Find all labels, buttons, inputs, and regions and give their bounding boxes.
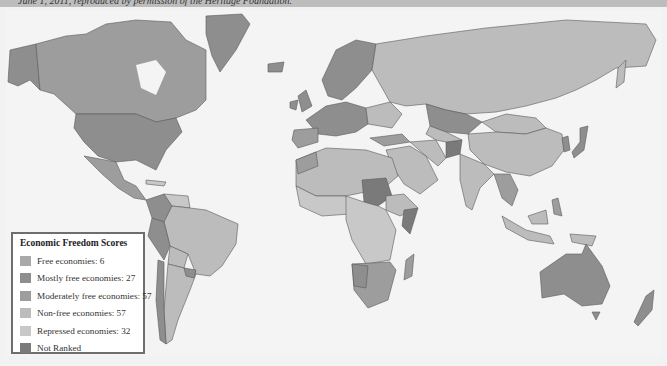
region-madagascar bbox=[404, 254, 414, 280]
swatch-moderately-free bbox=[20, 291, 31, 301]
region-uk bbox=[298, 90, 312, 112]
region-canada bbox=[36, 20, 206, 122]
legend-label: Moderately free economies: 57 bbox=[37, 291, 152, 301]
legend-item-moderately-free: Moderately free economies: 57 bbox=[20, 287, 137, 305]
region-mexico bbox=[84, 156, 146, 200]
legend-label: Repressed economies: 32 bbox=[37, 326, 130, 336]
region-eastern-europe bbox=[366, 102, 402, 128]
region-afghanistan bbox=[446, 140, 462, 158]
legend-label: Non-free economies: 57 bbox=[37, 308, 126, 318]
legend-item-mostly-free: Mostly free economies: 27 bbox=[20, 270, 137, 288]
swatch-not-ranked bbox=[20, 343, 31, 353]
legend-item-repressed: Repressed economies: 32 bbox=[20, 322, 137, 340]
region-australia bbox=[540, 244, 610, 306]
legend-item-non-free: Non-free economies: 57 bbox=[20, 305, 137, 323]
top-caption-strip: June 1, 2011, reproduced by permission o… bbox=[0, 0, 667, 7]
swatch-non-free bbox=[20, 308, 31, 318]
legend-box: Economic Freedom Scores Free economies: … bbox=[11, 232, 145, 354]
swatch-free bbox=[20, 256, 31, 266]
swatch-repressed bbox=[20, 326, 31, 336]
legend-label: Mostly free economies: 27 bbox=[37, 273, 135, 283]
legend-label: Not Ranked bbox=[37, 343, 81, 353]
region-new-zealand bbox=[634, 290, 654, 326]
legend-item-not-ranked: Not Ranked bbox=[20, 340, 137, 358]
caption-text: June 1, 2011, reproduced by permission o… bbox=[18, 0, 292, 6]
region-southeast-asia bbox=[494, 174, 518, 206]
region-russia bbox=[372, 20, 656, 114]
region-japan bbox=[572, 126, 588, 158]
legend-label: Free economies: 6 bbox=[37, 256, 104, 266]
region-scandinavia bbox=[322, 40, 376, 100]
region-iberia bbox=[292, 128, 318, 148]
swatch-mostly-free bbox=[20, 273, 31, 283]
region-alaska bbox=[8, 44, 40, 90]
region-turkey bbox=[370, 134, 410, 146]
legend-item-free: Free economies: 6 bbox=[20, 252, 137, 270]
region-greenland bbox=[206, 14, 250, 72]
legend-title: Economic Freedom Scores bbox=[20, 238, 137, 248]
